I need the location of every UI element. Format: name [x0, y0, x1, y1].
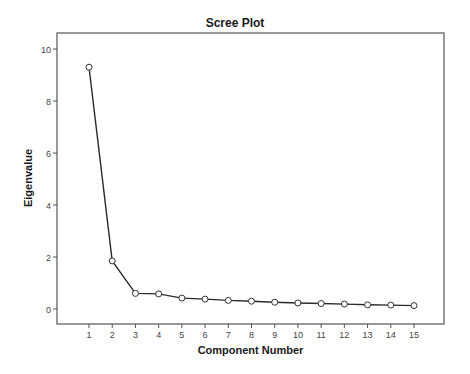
y-tick-label: 4: [46, 201, 51, 211]
data-point-marker: [272, 299, 278, 305]
data-point-marker: [365, 302, 371, 308]
x-tick-label: 11: [316, 330, 325, 340]
data-point-marker: [156, 291, 162, 297]
x-axis-label: Component Number: [57, 344, 444, 356]
data-point-marker: [295, 300, 301, 306]
data-point-marker: [225, 297, 231, 303]
scree-plot: 0246810123456789101112131415: [0, 0, 470, 374]
y-axis-label: Eigenvalue: [22, 118, 34, 238]
x-tick-label: 13: [363, 330, 373, 340]
y-tick-label: 2: [46, 253, 51, 263]
plot-frame: [57, 33, 444, 324]
x-tick-label: 10: [293, 330, 303, 340]
x-tick-label: 15: [409, 330, 419, 340]
x-tick-label: 4: [156, 330, 161, 340]
data-point-marker: [249, 298, 255, 304]
x-tick-label: 14: [386, 330, 396, 340]
x-tick-label: 6: [203, 330, 208, 340]
x-tick-label: 5: [179, 330, 184, 340]
x-tick-label: 3: [133, 330, 138, 340]
x-tick-label: 9: [272, 330, 277, 340]
x-tick-label: 1: [86, 330, 91, 340]
x-tick-label: 8: [249, 330, 254, 340]
data-point-marker: [86, 64, 92, 70]
data-point-marker: [202, 296, 208, 302]
data-point-marker: [388, 302, 394, 308]
y-tick-label: 8: [46, 97, 51, 107]
x-tick-label: 12: [339, 330, 349, 340]
y-tick-label: 10: [41, 45, 51, 55]
data-point-marker: [411, 303, 417, 309]
eigenvalue-line: [89, 67, 414, 305]
data-point-marker: [179, 295, 185, 301]
data-point-marker: [109, 258, 115, 264]
data-point-marker: [341, 301, 347, 307]
data-point-marker: [132, 290, 138, 296]
y-tick-label: 0: [46, 305, 51, 315]
data-point-marker: [318, 301, 324, 307]
y-tick-label: 6: [46, 149, 51, 159]
x-tick-label: 2: [110, 330, 115, 340]
x-tick-label: 7: [226, 330, 231, 340]
